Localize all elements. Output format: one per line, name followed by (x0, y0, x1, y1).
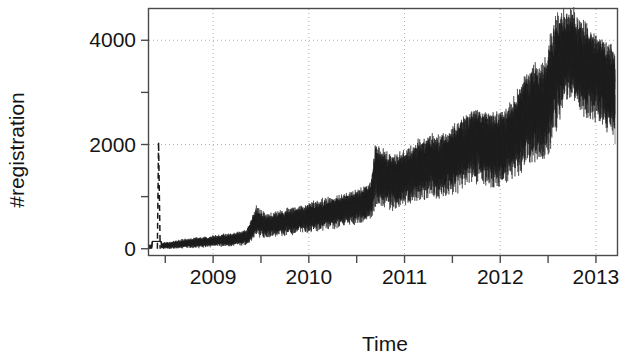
y-tick-label: 2000 (89, 133, 136, 156)
chart-background (0, 0, 626, 359)
x-tick-label: 2009 (190, 265, 237, 288)
x-axis-title: Time (362, 332, 408, 355)
x-tick-label: 2013 (573, 265, 620, 288)
y-tick-label: 4000 (89, 28, 136, 51)
chart-figure: 20092010201120122013020004000 Time #regi… (0, 0, 626, 359)
x-tick-label: 2010 (285, 265, 332, 288)
x-tick-label: 2012 (477, 265, 524, 288)
y-tick-label: 0 (124, 237, 136, 260)
registration-time-series-chart: 20092010201120122013020004000 Time #regi… (0, 0, 626, 359)
y-axis-title: #registration (5, 92, 28, 208)
x-tick-label: 2011 (382, 265, 427, 288)
